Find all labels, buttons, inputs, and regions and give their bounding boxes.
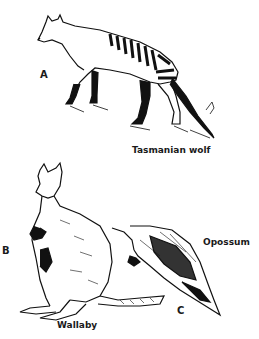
marsupials-illustration: A Tasmanian wolf B Wallaby Opossum C — [0, 0, 259, 339]
tasmanian-wolf-drawing — [38, 15, 214, 138]
label-tasmanian-wolf: Tasmanian wolf — [132, 146, 210, 155]
label-letter-c: C — [177, 306, 184, 316]
label-letter-b: B — [2, 246, 10, 256]
label-opossum: Opossum — [203, 238, 250, 247]
label-letter-a: A — [40, 70, 48, 80]
wallaby-drawing — [20, 163, 164, 320]
label-wallaby: Wallaby — [57, 321, 97, 330]
